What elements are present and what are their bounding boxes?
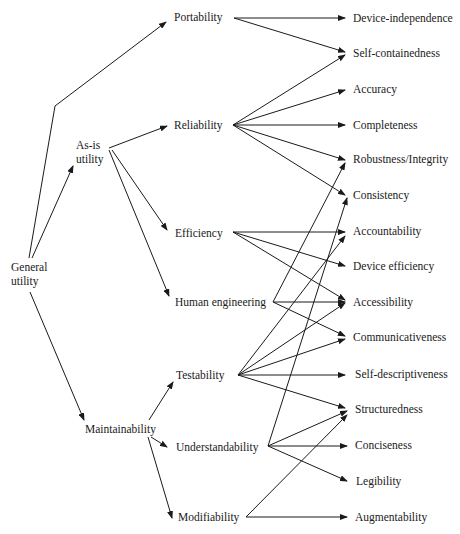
node-robustness-integrity: Robustness/Integrity xyxy=(353,152,448,166)
node-accuracy: Accuracy xyxy=(353,82,397,96)
edge-eff-accessibility xyxy=(233,232,345,300)
node-efficiency: Efficiency xyxy=(175,226,223,240)
node-accessibility: Accessibility xyxy=(353,295,413,309)
node-completeness: Completeness xyxy=(353,118,418,132)
node-communicativeness: Communicativeness xyxy=(353,330,446,344)
edge-rel-robustness xyxy=(233,125,345,160)
node-augmentability: Augmentability xyxy=(355,510,427,524)
node-accountability: Accountability xyxy=(353,224,421,238)
edge-asis-efficiency xyxy=(112,150,167,230)
edge-port-selfcont xyxy=(234,18,345,52)
node-self-descriptiveness: Self-descriptiveness xyxy=(355,367,448,381)
node-portability: Portability xyxy=(174,10,223,24)
node-device-independence: Device-independence xyxy=(353,11,453,25)
node-modifiability: Modifiability xyxy=(178,510,239,524)
edge-general-portability xyxy=(55,22,166,106)
node-consistency: Consistency xyxy=(353,188,409,202)
node-as-is-utility: As-is utility xyxy=(76,138,103,166)
edge-maint-understandability xyxy=(151,437,167,447)
node-general-utility: General utility xyxy=(11,260,47,288)
edge-asis-reliability xyxy=(109,126,167,148)
node-maintainability: Maintainability xyxy=(85,422,156,436)
edge-rel-consistency xyxy=(233,125,345,195)
edge-test-structuredness xyxy=(238,375,345,408)
node-self-containedness: Self-containedness xyxy=(353,46,440,60)
edge-maint-testability xyxy=(149,382,173,420)
edge-eff-deviceeff xyxy=(233,232,345,266)
software-quality-tree-diagram: General utility As-is utility Portabilit… xyxy=(0,0,460,534)
edge-test-communicativeness xyxy=(238,339,345,375)
node-human-engineering: Human engineering xyxy=(175,295,266,309)
edge-rel-selfcont xyxy=(233,55,345,125)
edge-he-communicativeness xyxy=(273,302,345,336)
edge-und-legibility xyxy=(268,446,347,481)
edge-asis-human-engineering xyxy=(109,150,169,296)
node-legibility: Legibility xyxy=(356,474,401,488)
edge-rel-accuracy xyxy=(233,90,345,125)
edge-maint-modifiability xyxy=(148,437,172,518)
node-conciseness: Conciseness xyxy=(355,438,412,452)
edge-mod-structuredness xyxy=(246,415,347,517)
edge-test-accessibility xyxy=(238,303,345,375)
edge-und-structuredness xyxy=(268,411,347,446)
node-understandability: Understandability xyxy=(176,440,258,454)
edge-general-asis xyxy=(32,166,73,258)
edge-general-maintainability xyxy=(30,292,84,420)
node-device-efficiency: Device efficiency xyxy=(353,259,434,273)
node-reliability: Reliability xyxy=(174,118,223,132)
node-testability: Testability xyxy=(176,368,224,382)
node-structuredness: Structuredness xyxy=(355,402,423,416)
